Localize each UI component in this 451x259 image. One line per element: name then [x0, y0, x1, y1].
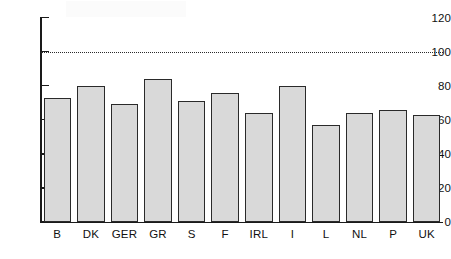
- bar-i: [279, 86, 307, 222]
- bar-dk: [77, 86, 105, 222]
- bar-nl: [346, 113, 374, 222]
- bar-l: [312, 125, 340, 222]
- bar-irl: [245, 113, 273, 222]
- y-tick-80: [41, 85, 49, 86]
- y-tick-label: 120: [417, 12, 451, 24]
- bar-uk: [413, 115, 441, 222]
- reference-line-100: [41, 52, 443, 53]
- bar-gr: [144, 79, 172, 222]
- scan-artifact: [66, 1, 186, 17]
- bar-f: [211, 93, 239, 222]
- y-tick-label: 80: [417, 80, 451, 92]
- y-axis-spine: [40, 17, 42, 223]
- bar-p: [379, 110, 407, 222]
- bar-s: [178, 101, 206, 222]
- bar-ger: [111, 104, 139, 222]
- x-tick-label-uk: UK: [403, 228, 451, 240]
- bar-chart: 020406080100120 BDKGERGRSFIRLILNLPUK: [0, 0, 451, 259]
- bar-b: [44, 98, 72, 222]
- y-tick-120: [41, 17, 49, 18]
